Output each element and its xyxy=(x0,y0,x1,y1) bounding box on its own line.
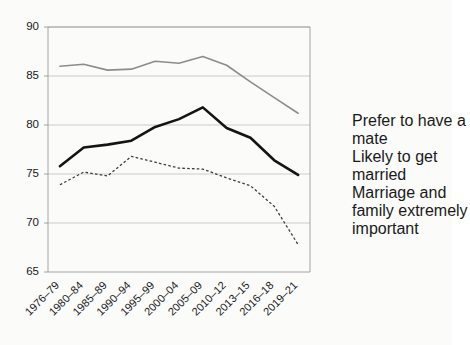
y-tick-label-90: 90 xyxy=(26,20,39,32)
y-tick-label-85: 85 xyxy=(26,69,39,81)
gridlines-group xyxy=(48,27,310,223)
series-lines-group xyxy=(60,56,298,244)
y-tick-label-80: 80 xyxy=(26,118,39,130)
x-tick-labels: 1976–791980–841985–891990–941995–992000–… xyxy=(23,279,300,318)
series-line-prefer-to-have-a-mate xyxy=(60,56,298,113)
legend-label-prefer-to-have-a-mate: Prefer to have a mate xyxy=(352,112,470,148)
y-tick-marks xyxy=(44,27,48,272)
y-tick-labels: 657075808590 xyxy=(26,20,39,277)
y-tick-label-75: 75 xyxy=(26,167,39,179)
series-line-likely-to-get-married xyxy=(60,107,298,175)
legend-label-likely-to-get-married: Likely to get married xyxy=(352,148,470,184)
y-tick-label-70: 70 xyxy=(26,216,39,228)
series-line-marriage-and-family-extremely-important xyxy=(60,156,298,244)
y-tick-label-65: 65 xyxy=(26,265,39,277)
legend-label-marriage-and-family-extremely-important: Marriage and family extremely important xyxy=(352,184,470,238)
